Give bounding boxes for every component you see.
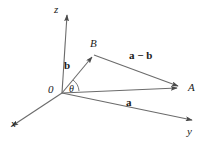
- theta-angle-label: θ: [69, 84, 74, 94]
- z-axis-line: [62, 15, 67, 93]
- origin-label: 0: [48, 84, 54, 95]
- point-b-label: B: [90, 38, 97, 49]
- axis-group: [12, 15, 192, 126]
- point-a-label: A: [188, 82, 195, 93]
- vector-a-minus-b-label: a − b: [129, 50, 152, 61]
- x-axis-label: x: [11, 118, 16, 129]
- vector-b-label: b: [64, 60, 70, 71]
- vector-a-label: a: [126, 97, 132, 108]
- x-axis-line: [12, 93, 62, 126]
- vector-group: [62, 55, 178, 93]
- z-axis-label: z: [54, 4, 58, 15]
- vector-diagram-canvas: [0, 0, 210, 142]
- vector-diagram-figure: z x y 0 A B θ b a a − b: [0, 0, 210, 142]
- y-axis-label: y: [187, 126, 192, 137]
